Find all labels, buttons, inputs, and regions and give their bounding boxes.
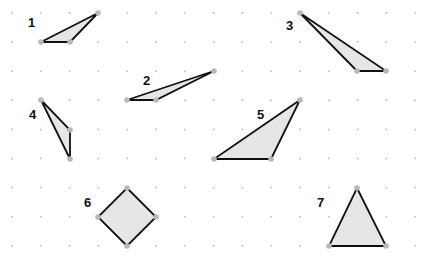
grid-dot <box>126 158 128 160</box>
grid-dot <box>40 158 42 160</box>
grid-dot <box>155 158 157 160</box>
grid-dot <box>97 70 99 72</box>
grid-dot <box>328 70 330 72</box>
grid-dot <box>40 187 42 189</box>
grid-dot <box>385 216 387 218</box>
polygon <box>41 100 70 159</box>
vertex-dot <box>95 10 101 16</box>
grid-dot <box>241 245 243 247</box>
shape-label: 2 <box>143 73 150 88</box>
grid-dot <box>213 128 215 130</box>
grid-dot <box>126 12 128 14</box>
grid-dot <box>328 158 330 160</box>
grid-dot <box>97 158 99 160</box>
grid-dot <box>414 128 416 130</box>
grid-dot <box>414 187 416 189</box>
grid-dot <box>11 41 13 43</box>
grid-dot <box>155 70 157 72</box>
shape-label: 3 <box>286 18 293 33</box>
grid-dot <box>97 245 99 247</box>
vertex-dot <box>326 243 332 249</box>
vertex-dot <box>67 156 73 162</box>
vertex-dot <box>124 185 130 191</box>
shape-7: 7 <box>317 185 389 249</box>
grid-dot <box>69 99 71 101</box>
vertex-dot <box>67 127 73 133</box>
vertex-dot <box>383 68 389 74</box>
grid-dot <box>299 41 301 43</box>
grid-dot <box>270 12 272 14</box>
vertex-dot <box>211 156 217 162</box>
grid-dot <box>328 99 330 101</box>
grid-dot <box>155 12 157 14</box>
grid-dot <box>241 41 243 43</box>
grid-dot <box>385 158 387 160</box>
polygon <box>329 188 386 246</box>
dot-grid-diagram: 1234567 <box>0 0 428 265</box>
shape-1: 1 <box>28 10 101 45</box>
grid-dot <box>69 70 71 72</box>
grid-dot <box>328 12 330 14</box>
grid-dot <box>414 158 416 160</box>
grid-dot <box>385 12 387 14</box>
grid-dot <box>97 187 99 189</box>
grid-dot <box>155 187 157 189</box>
vertex-dot <box>124 97 130 103</box>
grid-dot <box>270 70 272 72</box>
grid-dot <box>414 12 416 14</box>
grid-dot <box>299 158 301 160</box>
grid-dot <box>184 70 186 72</box>
vertex-dot <box>124 243 130 249</box>
vertex-dot <box>211 68 217 74</box>
polygon <box>127 71 214 100</box>
grid-dot <box>299 187 301 189</box>
shape-6: 6 <box>84 185 159 249</box>
grid-dot <box>357 158 359 160</box>
vertex-dot <box>38 97 44 103</box>
grid-dot <box>241 216 243 218</box>
shape-label: 4 <box>29 107 37 122</box>
shape-label: 7 <box>317 195 324 210</box>
shapes: 1234567 <box>28 10 389 249</box>
grid-dot <box>155 41 157 43</box>
grid-dot <box>11 158 13 160</box>
vertex-dot <box>383 243 389 249</box>
grid-dot <box>241 128 243 130</box>
shape-label: 5 <box>257 107 264 122</box>
grid-dot <box>328 128 330 130</box>
grid-dot <box>241 187 243 189</box>
grid-dot <box>357 99 359 101</box>
grid-dot <box>11 12 13 14</box>
vertex-dot <box>297 97 303 103</box>
grid-dot <box>270 245 272 247</box>
vertex-dot <box>38 39 44 45</box>
shape-4: 4 <box>29 97 73 162</box>
polygon <box>98 188 156 246</box>
vertex-dot <box>153 97 159 103</box>
grid-dot <box>184 187 186 189</box>
vertex-dot <box>153 214 159 220</box>
grid-dot <box>11 187 13 189</box>
grid-dot <box>155 128 157 130</box>
grid-dot <box>184 245 186 247</box>
grid-dot <box>241 12 243 14</box>
vertex-dot <box>354 185 360 191</box>
grid-dot <box>69 216 71 218</box>
grid-dot <box>270 99 272 101</box>
grid-dot <box>299 128 301 130</box>
grid-dot <box>357 12 359 14</box>
grid-dot <box>414 99 416 101</box>
vertex-dot <box>268 156 274 162</box>
grid-dot <box>414 41 416 43</box>
grid-dot <box>184 99 186 101</box>
grid-dot <box>69 12 71 14</box>
grid-dot <box>299 70 301 72</box>
grid-dot <box>357 128 359 130</box>
grid-dot <box>213 187 215 189</box>
grid-dot <box>11 70 13 72</box>
grid-dot <box>69 245 71 247</box>
grid-dot <box>40 216 42 218</box>
vertex-dot <box>67 39 73 45</box>
grid-dot <box>414 216 416 218</box>
grid-dot <box>97 128 99 130</box>
